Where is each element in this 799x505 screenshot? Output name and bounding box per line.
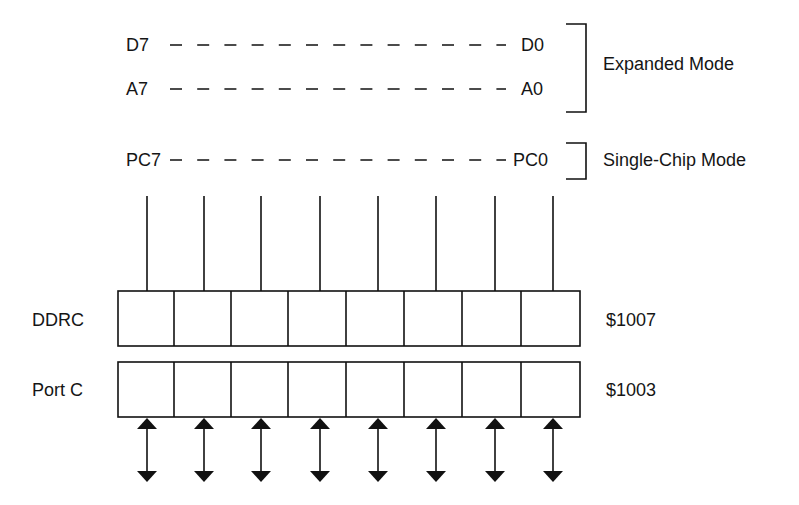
d7-label: D7 bbox=[126, 35, 149, 55]
port-c-address-label: $1003 bbox=[606, 380, 656, 400]
up-arrow-icon bbox=[251, 418, 271, 429]
port-c-register-box bbox=[118, 362, 580, 417]
up-arrow-icon bbox=[485, 418, 505, 429]
up-arrow-icon bbox=[137, 418, 157, 429]
down-arrow-icon bbox=[137, 471, 157, 482]
io-arrow-shafts bbox=[147, 426, 553, 474]
up-arrow-icon bbox=[543, 418, 563, 429]
ddrc-register-box bbox=[118, 291, 580, 346]
down-arrow-icon bbox=[251, 471, 271, 482]
up-arrow-icon bbox=[194, 418, 214, 429]
down-arrow-icon bbox=[543, 471, 563, 482]
single-chip-mode-bracket bbox=[566, 143, 586, 179]
bit-lines bbox=[147, 196, 553, 291]
single-chip-mode-label: Single-Chip Mode bbox=[603, 150, 746, 170]
down-arrow-icon bbox=[310, 471, 330, 482]
ddrc-register-label: DDRC bbox=[32, 310, 84, 330]
pc7-label: PC7 bbox=[126, 150, 161, 170]
up-arrow-icon bbox=[368, 418, 388, 429]
a7-label: A7 bbox=[126, 79, 148, 99]
down-arrow-icon bbox=[485, 471, 505, 482]
port-c-register-label: Port C bbox=[32, 380, 83, 400]
up-arrow-icon bbox=[426, 418, 446, 429]
expanded-mode-label: Expanded Mode bbox=[603, 54, 734, 74]
io-arrow-heads bbox=[137, 418, 563, 482]
up-arrow-icon bbox=[310, 418, 330, 429]
down-arrow-icon bbox=[194, 471, 214, 482]
diagram-canvas bbox=[0, 0, 799, 505]
down-arrow-icon bbox=[426, 471, 446, 482]
a0-label: A0 bbox=[521, 79, 543, 99]
expanded-mode-bracket bbox=[566, 24, 586, 112]
down-arrow-icon bbox=[368, 471, 388, 482]
ddrc-address-label: $1007 bbox=[606, 310, 656, 330]
d0-label: D0 bbox=[521, 35, 544, 55]
pc0-label: PC0 bbox=[513, 150, 548, 170]
